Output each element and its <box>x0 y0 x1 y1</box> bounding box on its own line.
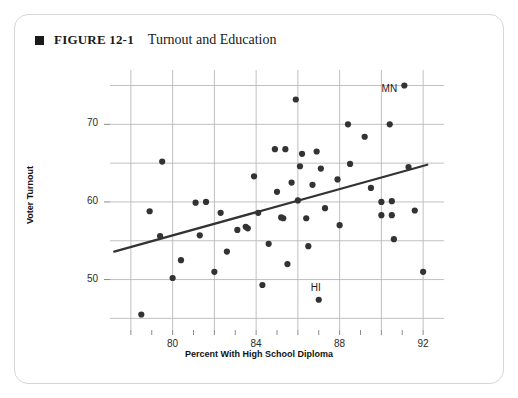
x-axis-title: Percent With High School Diploma <box>0 349 518 359</box>
x-tick-label: 80 <box>153 338 193 349</box>
y-axis-title: Voter Turnout <box>25 135 35 255</box>
figure-title: Turnout and Education <box>148 32 277 48</box>
y-tick-label: 50 <box>66 273 98 284</box>
figure-number: FIGURE 12-1 <box>54 32 134 48</box>
figure-header: FIGURE 12-1 Turnout and Education <box>35 32 276 48</box>
black-square-icon <box>35 36 44 45</box>
x-tick-label: 84 <box>236 338 276 349</box>
point-label-hi: HI <box>304 282 328 293</box>
x-tick-label: 88 <box>320 338 360 349</box>
point-label-mn: MN <box>377 83 401 94</box>
y-tick-label: 70 <box>66 117 98 128</box>
y-tick-label: 60 <box>66 195 98 206</box>
x-tick-label: 92 <box>403 338 443 349</box>
